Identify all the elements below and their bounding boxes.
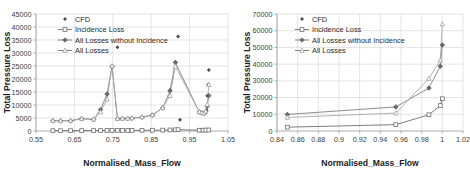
legend-marker-incidence-loss xyxy=(300,28,304,32)
series-marker-all-losses xyxy=(285,115,289,119)
right-xtick-labels: 0.840.860.880.90.920.940.960.9811.02 xyxy=(270,135,470,144)
series-marker-incidence-loss xyxy=(207,128,211,132)
series-marker-incidence-loss xyxy=(176,128,180,132)
y-tick-label: 40000 xyxy=(12,23,32,32)
series-marker-incidence-loss xyxy=(99,129,103,133)
series-marker-all-losses xyxy=(68,118,72,122)
series-marker-all-losses-without-incidence xyxy=(105,92,110,97)
series-marker-all-losses xyxy=(110,64,114,68)
y-tick-label: 15000 xyxy=(12,88,32,97)
left-yaxis-title: Total Pressure Loss xyxy=(2,32,12,114)
series-marker-all-losses xyxy=(440,22,444,26)
legend-marker-all-losses xyxy=(300,48,304,52)
y-tick-label: 35000 xyxy=(12,36,32,45)
legend-marker-cfd xyxy=(63,17,67,21)
series-marker-cfd xyxy=(176,35,180,39)
series-marker-all-losses xyxy=(120,116,124,120)
series-marker-incidence-loss xyxy=(197,128,201,132)
y-tick-label: 60000 xyxy=(253,26,273,35)
x-tick-label: 1.02 xyxy=(456,135,470,144)
left-series-lines xyxy=(53,62,209,130)
right-ytick-labels: 010000200003000040000500006000070000 xyxy=(253,10,273,136)
y-tick-label: 20000 xyxy=(12,75,32,84)
legend-label-incidence-loss: Incidence Loss xyxy=(312,25,362,34)
series-line-all-losses xyxy=(53,66,209,121)
series-marker-incidence-loss xyxy=(394,123,398,127)
series-marker-incidence-loss xyxy=(140,128,144,132)
series-marker-all-losses xyxy=(115,116,119,120)
series-marker-all-losses-without-incidence xyxy=(438,64,443,69)
left-chart-svg: 0500010000150002000025000300003500040000… xyxy=(0,0,235,172)
y-tick-label: 40000 xyxy=(253,60,273,69)
series-marker-incidence-loss xyxy=(168,128,172,132)
left-ytick-labels: 0500010000150002000025000300003500040000… xyxy=(12,10,32,136)
series-marker-incidence-loss xyxy=(69,129,73,133)
x-tick-label: 0.98 xyxy=(415,135,429,144)
chart-panel-left: 0500010000150002000025000300003500040000… xyxy=(0,0,235,172)
series-marker-all-losses-without-incidence xyxy=(427,86,432,91)
x-tick-label: 0.55 xyxy=(29,135,43,144)
series-marker-all-losses xyxy=(438,58,442,62)
series-marker-cfd xyxy=(115,45,119,49)
series-marker-all-losses xyxy=(126,116,130,120)
legend-label-all-losses-without-incidence: All Losses without Incidence xyxy=(312,36,405,45)
legend-label-cfd: CFD xyxy=(312,15,327,24)
series-marker-cfd xyxy=(207,68,211,72)
x-tick-label: 0.65 xyxy=(67,135,81,144)
x-tick-label: 1 xyxy=(440,135,444,144)
y-tick-label: 20000 xyxy=(253,93,273,102)
series-line-all-losses-without-incidence xyxy=(53,62,209,121)
series-marker-all-losses xyxy=(51,118,55,122)
x-tick-label: 0.94 xyxy=(373,135,387,144)
x-tick-label: 0.92 xyxy=(353,135,367,144)
x-tick-label: 0.95 xyxy=(183,135,197,144)
series-marker-incidence-loss xyxy=(427,113,431,117)
x-tick-label: 1.05 xyxy=(221,135,235,144)
y-tick-label: 45000 xyxy=(12,10,32,19)
series-marker-all-losses xyxy=(79,116,83,120)
y-tick-label: 70000 xyxy=(253,10,273,19)
series-marker-all-losses xyxy=(205,102,209,106)
y-tick-label: 50000 xyxy=(253,43,273,52)
right-legend: CFDIncidence LossAll Losses without Inci… xyxy=(295,15,405,56)
y-tick-label: 5000 xyxy=(16,114,32,123)
series-marker-incidence-loss xyxy=(105,129,109,133)
series-marker-all-losses xyxy=(140,115,144,119)
series-marker-incidence-loss xyxy=(110,129,114,133)
x-tick-label: 0.75 xyxy=(106,135,120,144)
x-tick-label: 0.85 xyxy=(144,135,158,144)
chart-panel-right: 010000200003000040000500006000070000 0.8… xyxy=(235,0,470,172)
x-tick-label: 0.86 xyxy=(291,135,305,144)
series-marker-incidence-loss xyxy=(59,129,63,133)
x-tick-label: 0.96 xyxy=(394,135,408,144)
right-yaxis-title: Total Pressure Loss xyxy=(242,32,252,114)
legend-label-incidence-loss: Incidence Loss xyxy=(75,25,125,34)
series-marker-incidence-loss xyxy=(440,97,444,101)
series-marker-all-losses xyxy=(150,112,154,116)
right-chart-svg: 010000200003000040000500006000070000 0.8… xyxy=(235,0,470,172)
legend-marker-all-losses-without-incidence xyxy=(300,38,305,43)
series-marker-all-losses xyxy=(207,82,211,86)
legend-label-all-losses: All Losses xyxy=(75,46,109,55)
legend-label-cfd: CFD xyxy=(75,15,90,24)
y-tick-label: 30000 xyxy=(12,49,32,58)
y-tick-label: 10000 xyxy=(253,110,273,119)
series-marker-all-losses xyxy=(58,118,62,122)
right-axes xyxy=(275,14,464,134)
legend-marker-cfd xyxy=(300,17,304,21)
figure-container: 0500010000150002000025000300003500040000… xyxy=(0,0,470,172)
legend-marker-all-losses-without-incidence xyxy=(63,38,68,43)
left-axes xyxy=(34,14,229,134)
series-marker-incidence-loss xyxy=(121,129,125,133)
series-marker-incidence-loss xyxy=(161,128,165,132)
left-xtick-labels: 0.550.650.750.850.951.05 xyxy=(29,135,235,144)
legend-label-all-losses: All Losses xyxy=(312,46,346,55)
series-marker-incidence-loss xyxy=(116,128,120,132)
series-marker-incidence-loss xyxy=(92,129,96,133)
legend-label-all-losses-without-incidence: All Losses without Incidence xyxy=(75,36,168,45)
series-marker-all-losses xyxy=(130,116,134,120)
series-marker-incidence-loss xyxy=(438,104,442,108)
series-marker-all-losses-without-incidence xyxy=(394,105,399,110)
series-line-all-losses-without-incidence xyxy=(287,45,442,115)
x-tick-label: 0.9 xyxy=(334,135,344,144)
